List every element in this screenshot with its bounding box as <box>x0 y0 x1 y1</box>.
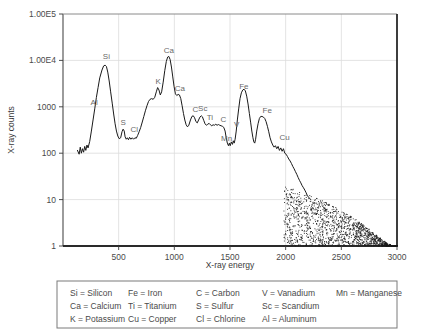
noise-point <box>332 221 333 222</box>
noise-point <box>369 232 370 233</box>
noise-point <box>293 214 294 215</box>
noise-point <box>320 240 321 241</box>
noise-point <box>315 242 316 243</box>
noise-point <box>334 233 335 234</box>
noise-point <box>364 238 365 239</box>
noise-point <box>351 245 352 246</box>
noise-point <box>350 232 351 233</box>
noise-point <box>289 227 290 228</box>
noise-point <box>360 243 361 244</box>
noise-point <box>289 220 290 221</box>
noise-point <box>320 239 321 240</box>
noise-point <box>348 218 349 219</box>
noise-point <box>314 209 315 210</box>
noise-point <box>291 243 292 244</box>
noise-point <box>363 226 364 227</box>
noise-point <box>284 224 285 225</box>
noise-point <box>317 204 318 205</box>
noise-point <box>342 234 343 235</box>
noise-point <box>314 200 315 201</box>
noise-point <box>369 245 370 246</box>
noise-point <box>294 239 295 240</box>
noise-point <box>337 240 338 241</box>
noise-point <box>313 235 314 236</box>
noise-point <box>324 221 325 222</box>
noise-point <box>304 198 305 199</box>
noise-point <box>358 243 359 244</box>
noise-point <box>291 196 292 197</box>
noise-point <box>287 223 288 224</box>
noise-point <box>296 233 297 234</box>
noise-point <box>357 226 358 227</box>
noise-point <box>364 241 365 242</box>
noise-point <box>354 229 355 230</box>
noise-point <box>333 207 334 208</box>
noise-point <box>312 207 313 208</box>
noise-point <box>328 213 329 214</box>
noise-point <box>304 195 305 196</box>
noise-point <box>304 211 305 212</box>
noise-point <box>285 221 286 222</box>
noise-point <box>323 219 324 220</box>
noise-point <box>326 202 327 203</box>
noise-point <box>286 194 287 195</box>
noise-point <box>345 214 346 215</box>
noise-point <box>358 245 359 246</box>
noise-point <box>360 226 361 227</box>
noise-point <box>372 239 373 240</box>
noise-point <box>302 230 303 231</box>
noise-point <box>318 239 319 240</box>
noise-point <box>316 203 317 204</box>
noise-point <box>337 213 338 214</box>
noise-point <box>301 218 302 219</box>
noise-point <box>292 231 293 232</box>
noise-point <box>335 222 336 223</box>
noise-point <box>296 216 297 217</box>
noise-point <box>315 199 316 200</box>
noise-point <box>325 223 326 224</box>
noise-point <box>329 240 330 241</box>
noise-point <box>345 222 346 223</box>
noise-point <box>294 245 295 246</box>
noise-point <box>312 238 313 239</box>
noise-point <box>354 225 355 226</box>
noise-point <box>305 245 306 246</box>
noise-point <box>360 239 361 240</box>
noise-point <box>346 235 347 236</box>
noise-point <box>369 243 370 244</box>
noise-point <box>326 230 327 231</box>
noise-point <box>340 246 341 247</box>
noise-point <box>287 200 288 201</box>
noise-point <box>308 228 309 229</box>
noise-point <box>310 219 311 220</box>
noise-point <box>344 236 345 237</box>
noise-point <box>360 232 361 233</box>
noise-point <box>291 240 292 241</box>
noise-point <box>302 203 303 204</box>
noise-point <box>311 196 312 197</box>
noise-point <box>325 221 326 222</box>
noise-point <box>358 240 359 241</box>
noise-point <box>366 243 367 244</box>
noise-point <box>300 198 301 199</box>
noise-point <box>325 202 326 203</box>
noise-point <box>322 224 323 225</box>
noise-point <box>358 229 359 230</box>
noise-point <box>308 229 309 230</box>
noise-point <box>353 234 354 235</box>
noise-point <box>327 225 328 226</box>
noise-point <box>322 231 323 232</box>
noise-point <box>289 243 290 244</box>
noise-point <box>359 238 360 239</box>
noise-point <box>345 217 346 218</box>
noise-point <box>320 201 321 202</box>
y-tick-label: 100 <box>42 148 56 158</box>
noise-point <box>372 233 373 234</box>
noise-point <box>302 242 303 243</box>
peak-label-cu: Cu <box>279 133 289 142</box>
y-axis-title: X-ray counts <box>6 106 16 154</box>
noise-point <box>332 206 333 207</box>
noise-point <box>305 219 306 220</box>
noise-point <box>361 234 362 235</box>
noise-point <box>300 204 301 205</box>
